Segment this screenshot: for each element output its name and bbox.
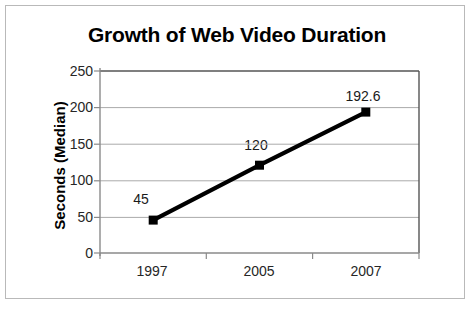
- data-marker-2007: [361, 108, 370, 117]
- plot-area: [0, 0, 474, 311]
- data-marker-1997: [149, 216, 158, 225]
- y-axis-ticks: [94, 71, 100, 253]
- data-marker-2005: [255, 161, 264, 170]
- chart-figure: Growth of Web Video Duration Seconds (Me…: [0, 0, 474, 311]
- x-axis-ticks: [100, 253, 419, 259]
